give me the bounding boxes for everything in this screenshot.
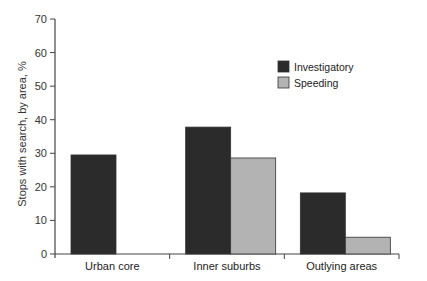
- bar-speeding: [345, 237, 390, 254]
- legend-label: Investigatory: [294, 61, 354, 73]
- y-tick-label: 50: [35, 80, 47, 92]
- y-tick-label: 10: [35, 214, 47, 226]
- bar-speeding: [231, 158, 276, 254]
- y-tick-label: 30: [35, 147, 47, 159]
- bar-investigatory: [300, 193, 345, 254]
- y-tick-label: 20: [35, 181, 47, 193]
- x-category-label: Inner suburbs: [193, 260, 261, 272]
- bar-investigatory: [186, 127, 231, 254]
- legend-swatch: [278, 61, 289, 72]
- y-tick-label: 40: [35, 114, 47, 126]
- x-category-label: Urban core: [85, 260, 139, 272]
- legend-label: Speeding: [294, 77, 339, 89]
- bar-investigatory: [71, 155, 116, 254]
- legend-swatch: [278, 77, 289, 88]
- y-tick-label: 70: [35, 13, 47, 25]
- y-tick-label: 60: [35, 47, 47, 59]
- y-tick-label: 0: [41, 248, 47, 260]
- x-category-label: Outlying areas: [306, 260, 377, 272]
- bar-chart: 010203040506070Urban coreInner suburbsOu…: [0, 0, 427, 281]
